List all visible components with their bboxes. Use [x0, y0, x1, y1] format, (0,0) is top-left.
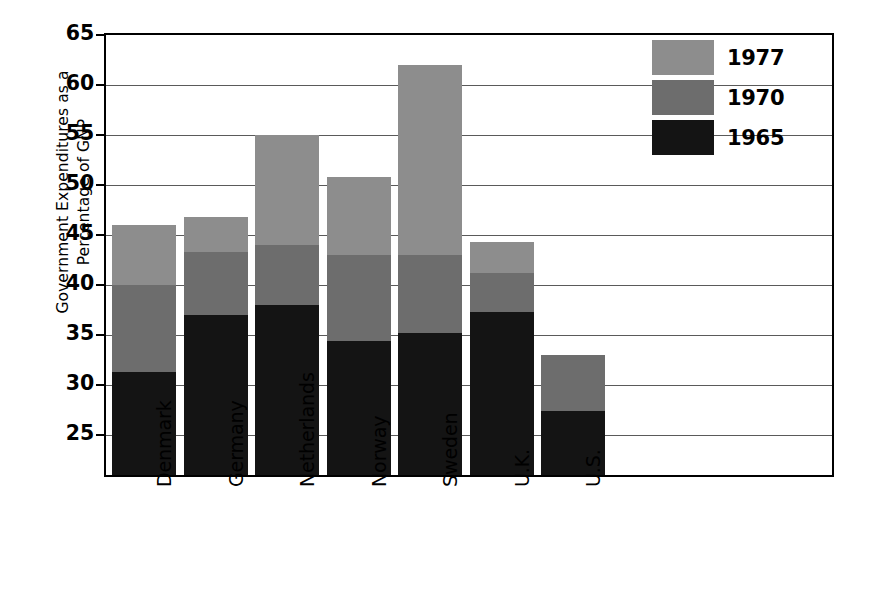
y-tick-mark-45: [96, 234, 104, 236]
legend-item-1970[interactable]: 1970: [652, 78, 832, 117]
legend-swatch-1977: [652, 40, 714, 75]
bar-group: [398, 35, 462, 475]
legend-item-1965[interactable]: 1965: [652, 118, 832, 157]
legend-label-1977: 1977: [727, 46, 784, 70]
x-tick-label: Netherlands: [296, 372, 318, 487]
y-tick-label-65: 65: [42, 21, 94, 45]
x-tick-label: Sweden: [439, 413, 461, 487]
y-tick-mark-50: [96, 184, 104, 186]
y-tick-label-55: 55: [42, 121, 94, 145]
legend-swatch-1970: [652, 80, 714, 115]
chart-legend: 197719701965: [652, 38, 832, 158]
bar-group: [327, 35, 391, 475]
y-tick-label-30: 30: [42, 371, 94, 395]
y-tick-label-45: 45: [42, 221, 94, 245]
y-tick-mark-65: [96, 34, 104, 36]
y-tick-label-25: 25: [42, 421, 94, 445]
legend-item-1977[interactable]: 1977: [652, 38, 832, 77]
y-tick-label-35: 35: [42, 321, 94, 345]
x-tick-label: Norway: [368, 416, 390, 487]
y-tick-mark-25: [96, 434, 104, 436]
x-tick-label: U.S.: [582, 449, 604, 487]
legend-label-1970: 1970: [727, 86, 784, 110]
bar-group: [470, 35, 534, 475]
y-tick-mark-30: [96, 384, 104, 386]
y-tick-label-60: 60: [42, 71, 94, 95]
y-tick-mark-35: [96, 334, 104, 336]
x-tick-label: Denmark: [153, 400, 175, 487]
legend-label-1965: 1965: [727, 126, 784, 150]
x-tick-label: Germany: [225, 400, 247, 487]
legend-swatch-1965: [652, 120, 714, 155]
y-tick-mark-55: [96, 134, 104, 136]
y-tick-mark-40: [96, 284, 104, 286]
y-tick-mark-60: [96, 84, 104, 86]
bar-group: [541, 35, 605, 475]
y-tick-label-50: 50: [42, 171, 94, 195]
y-tick-label-40: 40: [42, 271, 94, 295]
x-tick-label: U.K.: [511, 449, 533, 487]
chart-figure: Government Expenditures as a Percentage …: [0, 0, 870, 616]
